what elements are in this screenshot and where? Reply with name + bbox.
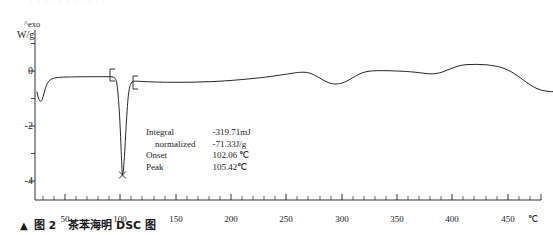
caption-triangle-icon: ▲ [20,220,28,231]
y-axis-minor-ticks [31,44,35,154]
x-tick-label-450: 450 [493,214,523,224]
dsc-curve-plot [0,8,553,208]
caption-title: 茶苯海明 DSC 图 [68,219,156,232]
annotation-value-peak: 105.42℃ [212,162,250,174]
x-axis-ticks [43,194,541,200]
x-tick-label-250: 250 [271,214,301,224]
y-tick-label-minus2: -2 [11,121,33,131]
integration-limit-left-marker [110,69,115,81]
caption-number: 图 2 [34,219,56,232]
cutoff-body-text: · · · · · · · · · · · [30,0,190,5]
x-tick-label-150: 150 [161,214,191,224]
annotation-value-onset: 102.06 ℃ [212,150,250,162]
y-axis-unit-label: W/g [17,29,34,40]
annotation-row-integral: Integral -319.71mJ [146,127,251,139]
x-axis-unit-label: ℃ [528,214,538,224]
annotation-table: Integral -319.71mJ normalized -71.33J/g … [146,127,251,173]
x-tick-label-300: 300 [327,214,357,224]
y-axis-exo-label: ^exo [24,20,40,29]
annotation-row-onset: Onset 102.06 ℃ [146,150,251,162]
annotation-value-integral: -319.71mJ [212,127,250,139]
annotation-key-integral: Integral [146,127,212,139]
annotation-key-onset: Onset [146,150,212,162]
plot-area: ^exo W/g 0 -2 -4 50 100 150 200 250 300 … [0,8,553,208]
x-tick-label-400: 400 [437,214,467,224]
annotation-value-normalized: -71.33J/g [212,139,250,151]
annotation-key-normalized: normalized [146,139,212,151]
x-tick-label-350: 350 [382,214,412,224]
y-tick-label-0: 0 [11,66,33,76]
y-tick-label-minus4: -4 [11,176,33,186]
annotation-row-peak: Peak 105.42℃ [146,162,251,174]
annotation-key-peak: Peak [146,162,212,174]
x-tick-label-200: 200 [216,214,246,224]
measurement-annotation-block: Integral -319.71mJ normalized -71.33J/g … [146,127,251,173]
figure-caption: ▲图 2茶苯海明 DSC 图 [20,216,156,232]
integration-limit-right-marker [133,76,138,89]
annotation-row-normalized: normalized -71.33J/g [146,139,251,151]
dsc-figure: · · · · · · · · · · · ^exo W/g 0 -2 -4 5… [0,0,553,235]
